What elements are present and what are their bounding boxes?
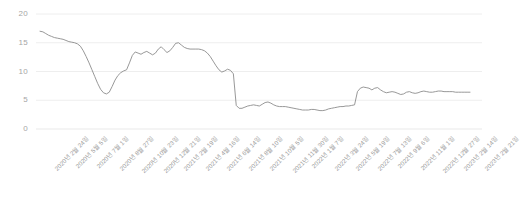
gridlines	[36, 14, 482, 129]
y-axis-tick-label: 15	[6, 38, 28, 47]
y-axis-tick-label: 5	[6, 95, 28, 104]
series-line	[40, 31, 470, 110]
y-axis-tick-label: 0	[6, 124, 28, 133]
y-axis-tick-label: 20	[6, 9, 28, 18]
y-axis-tick-label: 10	[6, 67, 28, 76]
